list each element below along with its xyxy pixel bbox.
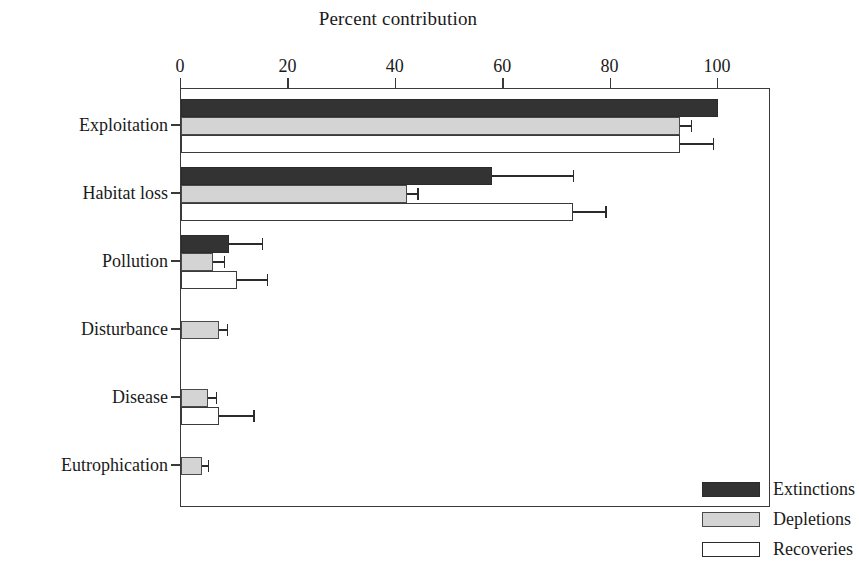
legend-item: Extinctions xyxy=(702,474,859,504)
y-axis-tick-mark xyxy=(171,464,180,465)
x-axis-tick-label: 20 xyxy=(278,56,296,77)
error-bar-line xyxy=(219,415,254,416)
bar xyxy=(181,235,229,253)
error-bar-cap xyxy=(691,120,692,132)
error-bar-cap xyxy=(227,324,228,336)
error-bar-line xyxy=(680,125,691,126)
y-axis-category-label: Habitat loss xyxy=(0,183,168,204)
y-axis-category-label: Disease xyxy=(0,387,168,408)
bar xyxy=(181,389,208,407)
error-bar-line xyxy=(237,279,267,280)
bar xyxy=(181,271,237,289)
x-axis-tick-mark xyxy=(180,78,181,88)
legend-swatch-depletions xyxy=(702,512,760,527)
bar xyxy=(181,407,219,425)
bar xyxy=(181,321,219,339)
error-bar-line xyxy=(680,143,712,144)
legend-swatch-recoveries xyxy=(702,542,760,557)
x-axis-tick-label: 60 xyxy=(493,56,511,77)
y-axis-tick-mark xyxy=(171,260,180,261)
x-axis-tick-label: 80 xyxy=(601,56,619,77)
plot-area: Extinctions Depletions Recoveries xyxy=(180,88,770,507)
x-axis-tick-mark xyxy=(502,78,503,88)
bar xyxy=(181,117,680,135)
y-axis-tick-mark xyxy=(171,192,180,193)
error-bar-line xyxy=(492,175,573,176)
y-axis-category-label: Exploitation xyxy=(0,115,168,136)
error-bar-cap xyxy=(573,170,574,182)
legend-label-recoveries: Recoveries xyxy=(773,539,853,560)
bar xyxy=(181,457,202,475)
bar xyxy=(181,253,213,271)
legend-item: Depletions xyxy=(702,504,859,534)
y-axis-tick-mark xyxy=(171,328,180,329)
x-axis-tick-mark xyxy=(395,78,396,88)
legend-item: Recoveries xyxy=(702,534,859,561)
x-axis-tick-label: 100 xyxy=(704,56,731,77)
x-axis-tick-label: 0 xyxy=(176,56,185,77)
bar xyxy=(181,203,573,221)
bar xyxy=(181,167,492,185)
legend-label-depletions: Depletions xyxy=(773,509,851,530)
error-bar-cap xyxy=(224,256,225,268)
error-bar-cap xyxy=(605,206,606,218)
bar xyxy=(181,135,680,153)
error-bar-cap xyxy=(417,188,418,200)
chart-title: Percent contribution xyxy=(0,8,796,30)
error-bar-line xyxy=(573,211,605,212)
error-bar-cap xyxy=(267,274,268,286)
error-bar-cap xyxy=(262,238,263,250)
y-axis-tick-mark xyxy=(171,396,180,397)
bar xyxy=(181,99,718,117)
y-axis-tick-mark xyxy=(171,124,180,125)
error-bar-line xyxy=(229,243,261,244)
legend-label-extinctions: Extinctions xyxy=(773,479,855,500)
error-bar-line xyxy=(208,397,216,398)
error-bar-line xyxy=(219,329,227,330)
y-axis-category-label: Pollution xyxy=(0,251,168,272)
error-bar-cap xyxy=(253,410,254,422)
error-bar-cap xyxy=(216,392,217,404)
error-bar-cap xyxy=(713,138,714,150)
error-bar-line xyxy=(407,193,418,194)
legend-swatch-extinctions xyxy=(702,482,760,497)
error-bar-cap xyxy=(208,460,209,472)
x-axis-tick-label: 40 xyxy=(386,56,404,77)
bar xyxy=(181,185,407,203)
x-axis-tick-mark xyxy=(610,78,611,88)
error-bar-line xyxy=(213,261,224,262)
y-axis-category-label: Eutrophication xyxy=(0,455,168,476)
x-axis-tick-mark xyxy=(717,78,718,88)
chart-legend: Extinctions Depletions Recoveries xyxy=(702,474,859,561)
x-axis-tick-mark xyxy=(287,78,288,88)
y-axis-category-label: Disturbance xyxy=(0,319,168,340)
